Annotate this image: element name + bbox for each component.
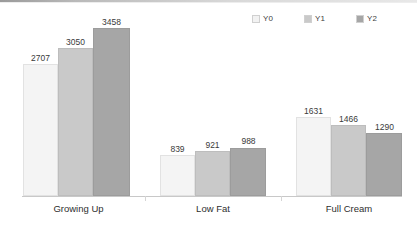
bar-growing-up-y2[interactable] [93,28,130,196]
plot-area: 2707 3050 3458 839 921 988 1631 1466 129… [0,0,417,232]
bar-low-fat-y0[interactable] [160,155,195,196]
x-axis-line [22,196,402,197]
category-label-low-fat: Low Fat [160,203,266,215]
bar-growing-up-y1[interactable] [58,48,93,196]
bar-low-fat-y1[interactable] [195,151,230,196]
x-axis-tick-1 [145,196,146,201]
bar-value-full-cream-y1: 1466 [328,115,369,124]
bar-full-cream-y1[interactable] [331,125,366,196]
bar-chart: Y0 Y1 Y2 2707 3050 3458 839 921 988 1631 [0,0,417,232]
bar-value-growing-up-y2: 3458 [91,18,132,27]
bar-full-cream-y0[interactable] [296,117,331,196]
bar-low-fat-y2[interactable] [230,148,266,196]
bar-value-growing-up-y1: 3050 [55,38,96,47]
category-label-growing-up: Growing Up [26,203,131,215]
bar-value-full-cream-y2: 1290 [364,123,405,132]
bar-value-low-fat-y1: 921 [192,141,233,150]
bar-value-growing-up-y0: 2707 [20,54,61,63]
bar-growing-up-y0[interactable] [23,64,58,196]
x-axis-tick-2 [281,196,282,201]
bar-value-low-fat-y2: 988 [228,137,269,146]
bar-full-cream-y2[interactable] [366,133,402,196]
category-label-full-cream: Full Cream [296,203,402,215]
